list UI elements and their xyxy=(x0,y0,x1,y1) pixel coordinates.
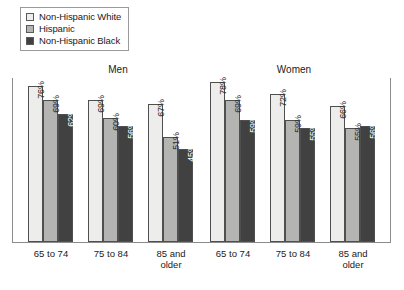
legend-swatch-non-hispanic-black xyxy=(26,37,34,45)
section-title-women: Women xyxy=(254,64,334,76)
chart-legend: Non-Hispanic White Hispanic Non-Hispanic… xyxy=(20,7,129,51)
axis-label-men-85plus: 85 and older xyxy=(136,248,206,270)
axis-label-women-85plus: 85 and older xyxy=(318,248,388,270)
plot-area xyxy=(12,78,391,243)
legend-item-hispanic: Hispanic xyxy=(26,23,121,35)
legend-item-non-hispanic-white: Non-Hispanic White xyxy=(26,11,121,23)
bar-chart: Non-Hispanic White Hispanic Non-Hispanic… xyxy=(0,0,404,290)
legend-label-non-hispanic-black: Non-Hispanic Black xyxy=(39,35,120,47)
legend-swatch-non-hispanic-white xyxy=(26,13,34,21)
section-title-men: Men xyxy=(78,64,158,76)
legend-item-non-hispanic-black: Non-Hispanic Black xyxy=(26,35,121,47)
legend-label-hispanic: Hispanic xyxy=(39,23,75,35)
legend-label-non-hispanic-white: Non-Hispanic White xyxy=(39,11,121,23)
legend-swatch-hispanic xyxy=(26,25,34,33)
